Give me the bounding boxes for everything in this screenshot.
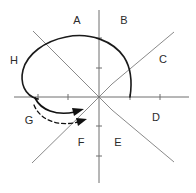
- region-label-a: A: [73, 14, 81, 26]
- dashed-rotation-arrow-head: [76, 118, 87, 126]
- axes-group: [14, 10, 189, 183]
- region-label-c: C: [159, 53, 167, 65]
- region-label-h: H: [10, 54, 18, 66]
- dashed-rotation-arrow-path: [34, 105, 78, 124]
- dashed-rotation-arrow: [34, 105, 87, 126]
- phase-plane-figure: A B C D E F G H: [0, 0, 196, 193]
- loop-trajectory-curve: [22, 36, 131, 99]
- region-label-b: B: [120, 14, 127, 26]
- region-label-d: D: [152, 111, 160, 123]
- solid-rotation-arrow: [35, 98, 84, 116]
- region-label-g: G: [25, 114, 34, 126]
- solid-rotation-arrow-head: [72, 108, 84, 116]
- region-label-e: E: [114, 136, 121, 148]
- figure-canvas: A B C D E F G H: [0, 0, 196, 193]
- region-labels-group: A B C D E F G H: [10, 14, 167, 148]
- region-label-f: F: [78, 136, 85, 148]
- solid-rotation-arrow-path: [35, 98, 75, 113]
